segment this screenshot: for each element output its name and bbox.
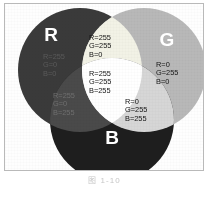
values-red-only: R=255 G=0 B=0 — [43, 53, 65, 78]
values-red-green-blue: R=255 G=255 B=255 — [89, 70, 111, 95]
set-label-blue: B — [102, 128, 122, 147]
values-green-blue-b: B=255 — [125, 115, 147, 123]
set-label-green: G — [157, 30, 177, 49]
figure-frame: R G B R=255 G=0 B=0 R=0 G=255 B=0 R=255 … — [4, 3, 204, 171]
values-red-blue-b: B=255 — [53, 109, 75, 117]
values-red-only-b: B=0 — [43, 70, 65, 78]
values-red-blue: R=255 G=0 B=255 — [53, 92, 75, 117]
values-red-green-b: B=0 — [89, 51, 111, 59]
set-label-red: R — [41, 25, 61, 44]
values-green-only: R=0 G=255 B=0 — [156, 61, 178, 86]
figure-caption: 图 1-10 — [0, 176, 209, 186]
values-red-green: R=255 G=255 B=0 — [89, 34, 111, 59]
venn-diagram: R G B R=255 G=0 B=0 R=0 G=255 B=0 R=255 … — [5, 4, 204, 171]
values-green-blue: R=0 G=255 B=255 — [125, 98, 147, 123]
values-green-only-b: B=0 — [156, 78, 178, 86]
values-rgb-b: B=255 — [89, 87, 111, 95]
